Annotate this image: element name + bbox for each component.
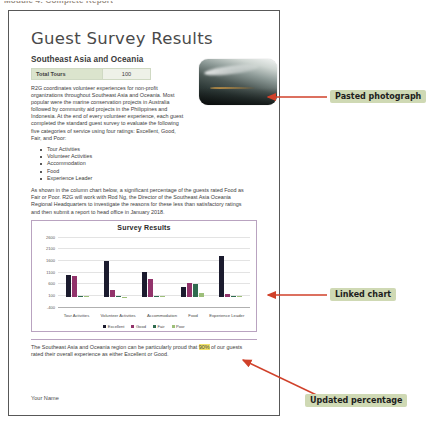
callout-pasted-photograph: Pasted photograph	[330, 90, 426, 103]
callout-updated-percentage: Updated percentage	[305, 394, 407, 407]
callout-linked-chart: Linked chart	[330, 288, 396, 301]
